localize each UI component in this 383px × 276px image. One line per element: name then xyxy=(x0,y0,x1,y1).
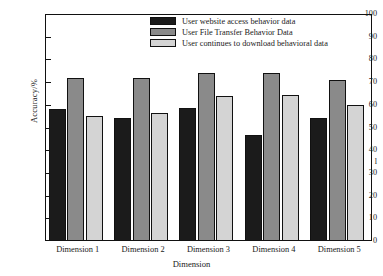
legend-label: User File Transfer Behavior Data xyxy=(182,28,293,37)
bar xyxy=(216,96,233,241)
legend-item: User File Transfer Behavior Data xyxy=(150,27,328,37)
bar xyxy=(133,78,150,241)
bar xyxy=(310,118,327,241)
x-tick-label: Dimension 1 xyxy=(45,245,110,254)
bar-group xyxy=(45,14,110,241)
bar xyxy=(67,78,84,241)
bar xyxy=(179,108,196,241)
bar-chart: Accuracy/% 1009080706050403020100l Dimen… xyxy=(0,0,383,276)
bar xyxy=(245,135,262,241)
bar xyxy=(198,73,215,241)
x-axis-title: Dimension xyxy=(0,259,383,269)
bar xyxy=(151,113,168,241)
bar xyxy=(86,116,103,241)
bar xyxy=(329,80,346,241)
chart-legend: User website access behavior dataUser Fi… xyxy=(150,16,328,49)
legend-swatch-icon xyxy=(150,28,176,36)
x-tick-label: Dimension 5 xyxy=(307,245,372,254)
y-axis-title: Accuracy/% xyxy=(29,65,39,137)
bar xyxy=(347,105,364,241)
bar xyxy=(114,118,131,241)
bar xyxy=(263,73,280,241)
legend-swatch-icon xyxy=(150,17,176,25)
legend-item: User website access behavior data xyxy=(150,16,328,26)
bar xyxy=(282,95,299,241)
x-tick-label: Dimension 3 xyxy=(176,245,241,254)
legend-item: User continues to download behavioral da… xyxy=(150,38,328,48)
x-tick-label: Dimension 2 xyxy=(110,245,175,254)
bar xyxy=(49,109,66,241)
x-tick-label: Dimension 4 xyxy=(241,245,306,254)
legend-label: User website access behavior data xyxy=(182,17,295,26)
legend-swatch-icon xyxy=(150,39,176,47)
legend-label: User continues to download behavioral da… xyxy=(182,39,328,48)
